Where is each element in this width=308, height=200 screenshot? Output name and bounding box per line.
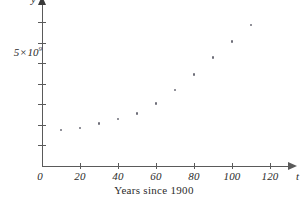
x-tick-120 [270,163,271,169]
y-tick-base: 10 [28,46,39,58]
y-tick-exponent: 9 [39,45,43,53]
x-tick-label-100: 100 [212,170,252,182]
x-tick-label-0: 0 [30,170,50,182]
y-axis-arrow-icon [38,0,46,5]
y-axis-line [42,4,43,167]
y-tick-5e9 [38,63,46,64]
x-tick-20 [80,163,81,169]
multiplication-sign: × [19,46,27,58]
x-tick-label-60: 60 [136,170,176,182]
x-tick-label-80: 80 [174,170,214,182]
y-tick-6e9 [38,43,46,44]
data-point [60,129,63,132]
x-tick-label-40: 40 [98,170,138,182]
x-tick-80 [194,163,195,169]
y-tick-1e9 [38,145,46,146]
y-tick-label-5e9: 5×109 [14,45,42,58]
data-point [193,73,196,76]
data-point [117,118,120,121]
x-tick-label-20: 20 [60,170,100,182]
x-axis-arrow-icon [288,162,297,170]
y-tick-4e9 [38,84,46,85]
scatter-plot-figure: y t 0 5×109 20406080100120 Years since 1… [0,0,308,200]
x-tick-60 [156,163,157,169]
data-point [79,127,82,130]
data-point [174,89,177,92]
x-tick-40 [118,163,119,169]
y-tick-7e9 [38,22,46,23]
data-point [212,56,215,59]
y-tick-3e9 [38,104,46,105]
y-tick-2e9 [38,125,46,126]
data-point [231,40,234,43]
x-axis-label: t [296,170,299,182]
x-tick-label-120: 120 [250,170,290,182]
chart-caption: Years since 1900 [0,184,308,196]
data-point [98,122,101,125]
x-tick-100 [232,163,233,169]
data-point [155,102,158,105]
data-point [250,24,253,27]
y-axis-label: y [31,0,36,5]
data-point [136,112,139,115]
